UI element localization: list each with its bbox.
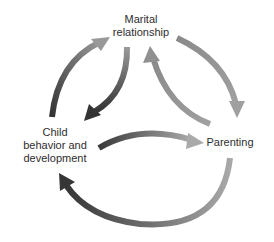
node-marital-relationship: Marital relationship [101,13,181,39]
node-label-line: behavior and [5,139,105,152]
node-label-line: development [5,152,105,165]
arrow-parenting-to-child [59,158,230,224]
arrow-parenting-to-marital [143,46,210,124]
arrow-child-to-parenting [99,133,204,149]
node-label-line: Parenting [200,136,260,149]
node-label-line: Marital [101,13,181,26]
arrow-marital-to-child [84,47,127,121]
node-label-line: Child [5,126,105,139]
node-parenting: Parenting [200,136,260,149]
arrow-marital-to-parenting [177,38,245,118]
family-systems-diagram: Marital relationship Child behavior and … [0,0,274,242]
node-label-line: relationship [101,26,181,39]
node-child-behavior: Child behavior and development [5,126,105,165]
